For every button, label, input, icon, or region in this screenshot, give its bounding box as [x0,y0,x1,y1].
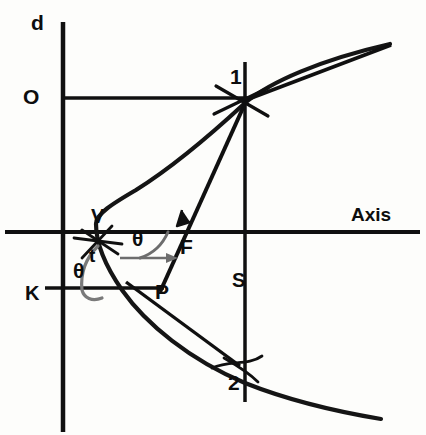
ray-2-line [126,282,240,366]
label-axis: Axis [351,205,391,224]
parabola-diagram: d O K V t θ θ F P S 1 2 Axis [0,0,426,435]
ray-1-incident-line [246,45,391,100]
parabola-upper-branch [96,44,390,224]
label-d-axis: d [31,12,44,33]
label-tangent: t [89,246,95,265]
label-ray-one: 1 [230,66,242,87]
label-focus: F [180,236,193,257]
label-ray-two: 2 [228,372,240,393]
label-directrix-point: K [25,283,39,303]
label-vertex: V [91,206,104,226]
label-theta-upper: θ [132,228,143,249]
label-point-s: S [232,270,245,290]
ray-1-reflected-line [160,99,247,292]
ray-direction-arrowhead-icon [177,210,190,226]
label-theta-lower: θ [73,260,84,281]
label-point-p: P [155,281,169,302]
angle-arc-upper [140,232,168,258]
label-origin: O [23,86,39,107]
